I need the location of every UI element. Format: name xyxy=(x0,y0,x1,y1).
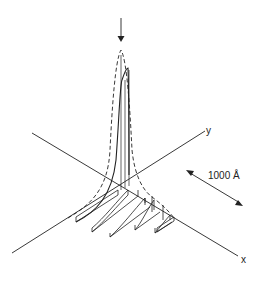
y-axis-label: y xyxy=(206,126,211,136)
y-axis xyxy=(12,131,205,253)
incident-beam-arrow xyxy=(118,18,125,42)
profile-slices xyxy=(76,190,174,237)
x-axis xyxy=(32,133,238,256)
diagram-canvas: y x 1000 Å xyxy=(0,0,261,281)
x-axis-label: x xyxy=(241,255,246,265)
diagram-svg xyxy=(0,0,261,281)
scale-bar-label: 1000 Å xyxy=(208,171,240,181)
